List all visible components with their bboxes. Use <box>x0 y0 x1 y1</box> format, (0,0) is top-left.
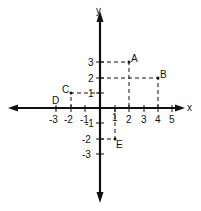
x-tick-label: 3 <box>141 114 147 125</box>
point-c-label: C <box>62 84 69 95</box>
x-tick-label: -3 <box>49 114 58 125</box>
y-tick-label: -2 <box>82 134 91 145</box>
point-a-label: A <box>131 53 138 64</box>
x-tick-label: 5 <box>169 114 175 125</box>
y-tick-label: 2 <box>88 73 94 84</box>
y-tick-label: 3 <box>88 57 94 68</box>
point-d <box>55 107 58 110</box>
x-axis-arrow-left <box>8 105 18 112</box>
point-e-label: E <box>116 139 123 150</box>
y-tick-label: -1 <box>85 118 94 129</box>
guide-a <box>100 62 129 108</box>
x-tick-label: -2 <box>64 114 73 125</box>
x-tick-label: 2 <box>126 114 132 125</box>
x-axis-label: x <box>187 102 192 113</box>
point-c <box>70 92 73 95</box>
y-tick-label: 1 <box>88 88 94 99</box>
y-axis-arrow-down <box>97 192 104 203</box>
y-axis-label: y <box>96 5 101 16</box>
x-tick-label: 4 <box>155 114 161 125</box>
point-d-label: D <box>52 95 59 106</box>
points: A B C D E <box>52 53 167 150</box>
y-tick-label: -3 <box>82 149 91 160</box>
x-axis-arrow-right <box>175 105 185 112</box>
point-b-label: B <box>160 69 167 80</box>
x-tick-label: 1 <box>112 112 118 123</box>
coordinate-plane: x y -3 -2 -1 1 2 3 4 5 3 2 1 -1 -2 -3 <box>0 0 201 211</box>
